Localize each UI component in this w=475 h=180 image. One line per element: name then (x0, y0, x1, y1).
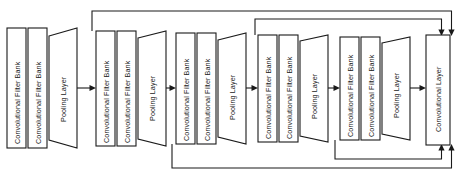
pooling-layer-label: Pooling Layer (310, 73, 319, 119)
skip-stage4-top-to-output (255, 19, 442, 35)
stage-2[interactable]: Convolutional Filter Bank Convolutional … (96, 31, 166, 146)
stage2-to-stage3-arrowhead (170, 85, 177, 91)
conv-filter-bank-label: Convolutional Filter Bank (123, 60, 132, 143)
network-architecture-diagram: Convolutional Filter Bank Convolutional … (0, 0, 475, 180)
stage1-to-stage2-arrowhead (90, 85, 97, 91)
skip-stage3-bottom-to-output (172, 144, 452, 168)
pooling-layer-label: Pooling Layer (392, 72, 401, 118)
conv-filter-bank-label: Convolutional Filter Bank (102, 60, 111, 143)
stage3-to-stage4-arrowhead (252, 85, 259, 91)
conv-filter-bank-label: Convolutional Filter Bank (34, 61, 43, 144)
stage-5[interactable]: Convolutional Filter Bank Convolutional … (340, 37, 410, 140)
conv-filter-bank-label: Convolutional Filter Bank (182, 58, 191, 141)
stage5-to-output-arrowhead (420, 85, 427, 91)
conv-filter-bank-label: Convolutional Filter Bank (346, 54, 355, 137)
stage-3[interactable]: Convolutional Filter Bank Convolutional … (176, 33, 246, 144)
skip-stage2-top-to-output (92, 11, 452, 31)
stage-1[interactable]: Convolutional Filter Bank Convolutional … (7, 28, 77, 148)
stage4-to-stage5-arrowhead (334, 85, 341, 91)
output-conv-layer[interactable]: Convolutional Layer (426, 35, 450, 145)
pooling-layer-label: Pooling Layer (59, 76, 68, 122)
convolutional-layer-label: Convolutional Layer (434, 66, 443, 132)
conv-filter-bank-label: Convolutional Filter Bank (285, 56, 294, 139)
conv-filter-bank-label: Convolutional Filter Bank (264, 56, 273, 139)
conv-filter-bank-label: Convolutional Filter Bank (13, 61, 22, 144)
diagram-canvas: Convolutional Filter Bank Convolutional … (0, 0, 475, 180)
conv-filter-bank-label: Convolutional Filter Bank (367, 54, 376, 137)
stage-4[interactable]: Convolutional Filter Bank Convolutional … (258, 35, 328, 142)
pooling-layer-label: Pooling Layer (148, 75, 157, 121)
conv-filter-bank-label: Convolutional Filter Bank (203, 58, 212, 141)
pooling-layer-label: Pooling Layer (228, 74, 237, 120)
